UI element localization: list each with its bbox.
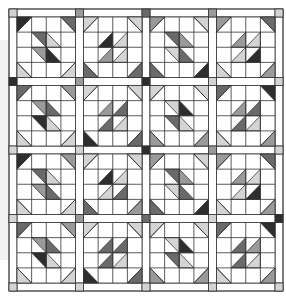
cornerstone — [142, 283, 150, 291]
cornerstone — [209, 9, 217, 17]
cornerstone — [76, 9, 84, 17]
cornerstone — [275, 215, 283, 223]
cornerstone — [76, 283, 84, 291]
cornerstone — [9, 9, 17, 17]
cornerstone — [142, 146, 150, 154]
cornerstone — [209, 78, 217, 86]
cornerstone — [209, 283, 217, 291]
cornerstone — [76, 78, 84, 86]
quilt-diagram — [0, 0, 286, 297]
cornerstone — [142, 78, 150, 86]
cornerstone — [275, 78, 283, 86]
cornerstone — [209, 215, 217, 223]
cornerstone — [9, 78, 17, 86]
cornerstone — [9, 146, 17, 154]
cornerstone — [9, 283, 17, 291]
cornerstone — [142, 215, 150, 223]
cornerstone — [76, 215, 84, 223]
cornerstone — [275, 146, 283, 154]
cornerstone — [142, 9, 150, 17]
cornerstone — [275, 9, 283, 17]
cornerstone — [9, 215, 17, 223]
cornerstone — [209, 146, 217, 154]
cornerstone — [76, 146, 84, 154]
cornerstone — [275, 283, 283, 291]
